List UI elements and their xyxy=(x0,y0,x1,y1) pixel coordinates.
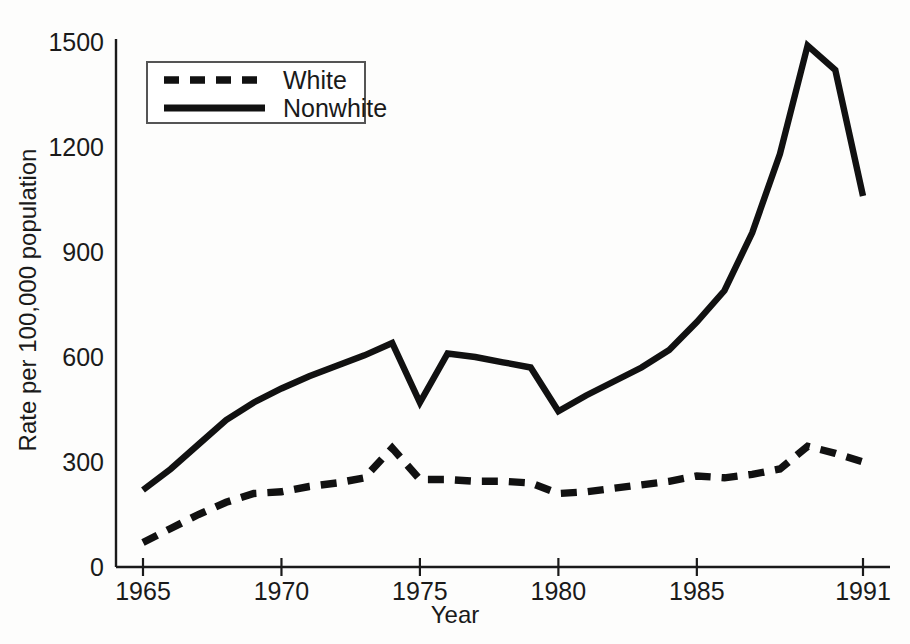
y-tick-label: 1500 xyxy=(48,28,104,56)
x-axis-tick-labels: 196519701975198019851991 xyxy=(115,577,891,605)
y-tick-label: 900 xyxy=(62,238,104,266)
y-axis-tick-labels: 030060090012001500 xyxy=(48,28,104,581)
line-chart-canvas: 196519701975198019851991 030060090012001… xyxy=(0,0,910,644)
x-axis-title: Year xyxy=(431,601,480,628)
legend-label-nonwhite: Nonwhite xyxy=(283,94,387,122)
y-tick-label: 300 xyxy=(62,448,104,476)
y-axis-title: Rate per 100,000 population xyxy=(14,149,41,452)
chart-figure: 196519701975198019851991 030060090012001… xyxy=(0,0,910,644)
x-tick-label: 1985 xyxy=(669,577,725,605)
y-tick-label: 0 xyxy=(90,553,104,581)
y-tick-label: 1200 xyxy=(48,133,104,161)
y-tick-label: 600 xyxy=(62,343,104,371)
chart-legend: White Nonwhite xyxy=(147,62,387,123)
series-line-white xyxy=(143,446,863,542)
x-tick-label: 1991 xyxy=(835,577,891,605)
legend-label-white: White xyxy=(283,66,347,94)
x-tick-label: 1965 xyxy=(115,577,171,605)
x-tick-label: 1970 xyxy=(254,577,310,605)
x-tick-label: 1980 xyxy=(531,577,587,605)
